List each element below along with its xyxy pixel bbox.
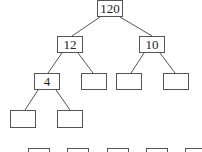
tree-node-empty <box>57 110 83 128</box>
edge-n10-e2 <box>131 53 144 73</box>
tree-node-empty <box>67 148 89 152</box>
edge-n120-n12 <box>72 17 100 36</box>
tree-node-10: 10 <box>139 36 165 53</box>
edge-n4-e5 <box>56 90 70 110</box>
tree-node-empty <box>107 148 129 152</box>
tree-node-empty <box>163 73 189 90</box>
edge-n12-n4 <box>48 53 62 73</box>
edge-n120-n10 <box>120 17 152 36</box>
tree-node-empty <box>185 148 202 152</box>
edge-n4-e4 <box>25 90 38 110</box>
tree-node-empty <box>116 73 142 90</box>
tree-node-empty <box>28 148 50 152</box>
tree-node-empty <box>81 73 107 90</box>
tree-node-120: 120 <box>97 0 123 17</box>
edge-n10-e3 <box>160 53 175 73</box>
tree-diagram: 12012104 <box>0 0 202 152</box>
edge-n12-e1 <box>78 53 93 73</box>
tree-node-4: 4 <box>34 73 60 90</box>
tree-node-12: 12 <box>57 36 83 53</box>
tree-node-empty <box>10 110 36 128</box>
tree-node-empty <box>146 148 168 152</box>
